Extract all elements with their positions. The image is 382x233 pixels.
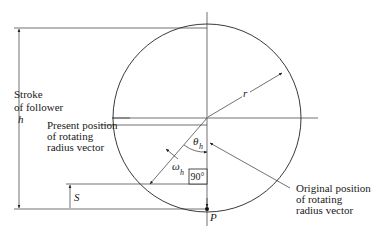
theta-subscript: h (199, 142, 203, 151)
point-p-label: P (209, 211, 217, 223)
present-position-label-line3: radius vector (47, 141, 104, 153)
stroke-label-line2: of follower (14, 101, 64, 113)
stroke-label-line1: Stroke (14, 88, 43, 100)
original-position-leader (210, 143, 290, 188)
radius-label: r (243, 87, 248, 99)
omega-subscript: h (180, 168, 184, 177)
point-p-marker (205, 207, 209, 211)
stroke-symbol: h (18, 113, 24, 125)
omega-label: ω (172, 160, 180, 172)
displacement-label: S (74, 191, 80, 203)
cam-displacement-diagram: r 90° Stroke of follower h Present posit… (0, 0, 382, 233)
original-position-label-line3: radius vector (296, 204, 353, 216)
right-angle-label: 90° (191, 171, 205, 182)
